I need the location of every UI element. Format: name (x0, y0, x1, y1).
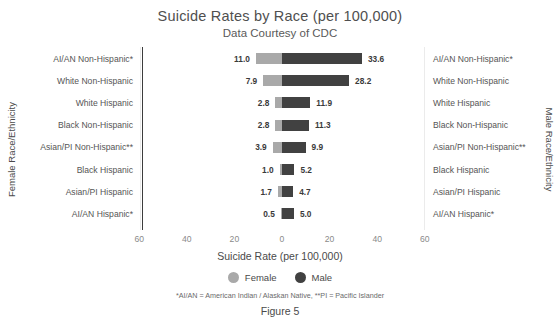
chart-title: Suicide Rates by Race (per 100,000) (0, 8, 560, 24)
male-value-label: 11.3 (315, 118, 331, 132)
category-label-left: AI/AN Hispanic* (0, 207, 133, 221)
category-label-left: Asian/PI Hispanic (0, 185, 133, 199)
male-value-label: 4.7 (299, 185, 311, 199)
male-swatch-icon (295, 272, 306, 283)
female-bar (256, 53, 282, 64)
male-value-label: 5.2 (300, 163, 312, 177)
category-label-left: Black Hispanic (0, 163, 133, 177)
chart-footnote: *AI/AN = American Indian / Alaskan Nativ… (0, 291, 560, 300)
male-value-label: 5.0 (300, 207, 312, 221)
male-value-label: 28.2 (355, 74, 371, 88)
category-label-right: White Non-Hispanic (433, 74, 560, 88)
female-bar (263, 75, 282, 86)
category-label-right: AI/AN Non-Hispanic* (433, 52, 560, 66)
category-label-right: Asian/PI Non-Hispanic** (433, 140, 560, 154)
male-bar (282, 186, 293, 197)
male-bar (282, 142, 306, 153)
legend-label-female: Female (245, 272, 277, 283)
female-value-label: 7.9 (197, 74, 257, 88)
male-value-label: 11.9 (316, 96, 332, 110)
chart-subtitle: Data Courtesy of CDC (0, 27, 560, 39)
female-value-label: 2.8 (209, 118, 269, 132)
female-value-label: 3.9 (207, 140, 267, 154)
female-value-label: 1.0 (214, 163, 274, 177)
female-value-label: 2.8 (209, 96, 269, 110)
male-bar (282, 75, 349, 86)
category-label-left: White Hispanic (0, 96, 133, 110)
male-bar (282, 97, 310, 108)
male-bar (282, 164, 294, 175)
x-tick-label: 20 (310, 234, 350, 244)
x-tick-label: 0 (262, 234, 302, 244)
female-swatch-icon (228, 272, 239, 283)
legend-item-female: Female (228, 272, 277, 283)
category-label-right: AI/AN Hispanic* (433, 207, 560, 221)
female-bar (275, 97, 282, 108)
category-label-left: White Non-Hispanic (0, 74, 133, 88)
category-label-left: AI/AN Non-Hispanic* (0, 52, 133, 66)
male-bar (282, 208, 294, 219)
female-value-label: 0.5 (215, 207, 275, 221)
figure-caption: Figure 5 (0, 305, 560, 317)
x-axis-label: Suicide Rate (per 100,000) (0, 250, 560, 262)
category-label-right: Black Non-Hispanic (433, 118, 560, 132)
legend-label-male: Male (312, 272, 333, 283)
female-value-label: 1.7 (212, 185, 272, 199)
legend-item-male: Male (295, 272, 333, 283)
male-value-label: 33.6 (368, 52, 384, 66)
category-label-right: Asian/PI Hispanic (433, 185, 560, 199)
x-tick-label: 20 (214, 234, 254, 244)
category-label-right: Black Hispanic (433, 163, 560, 177)
category-label-right: White Hispanic (433, 96, 560, 110)
chart-legend: Female Male (0, 272, 560, 283)
x-tick-label: 40 (357, 234, 397, 244)
male-value-label: 9.9 (312, 140, 324, 154)
chart-figure: Suicide Rates by Race (per 100,000) Data… (0, 0, 560, 322)
x-tick-label: 40 (167, 234, 207, 244)
female-value-label: 11.0 (190, 52, 250, 66)
x-tick-label: 60 (119, 234, 159, 244)
category-label-left: Black Non-Hispanic (0, 118, 133, 132)
category-label-left: Asian/PI Non-Hispanic** (0, 140, 133, 154)
x-tick-label: 60 (405, 234, 445, 244)
female-bar (275, 120, 282, 131)
male-bar (282, 53, 362, 64)
female-bar (273, 142, 282, 153)
male-bar (282, 120, 309, 131)
